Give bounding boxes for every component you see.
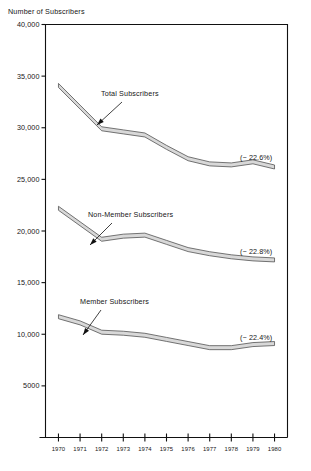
chart-container: Number of Subscribers 500010,00015,00020… xyxy=(0,0,311,471)
y-axis-tick-label: 35,000 xyxy=(17,72,40,81)
x-axis-tick-label: 1974 xyxy=(138,446,152,452)
y-axis-tick-label: 30,000 xyxy=(17,123,40,132)
y-axis-tick-label: 40,000 xyxy=(17,20,40,29)
percent-change-label-3: (− 22.4%) xyxy=(240,333,272,342)
plot-frame xyxy=(46,25,288,438)
percent-change-label-group: (− 22.6%)(− 22.8%)(− 22.4%) xyxy=(240,153,272,342)
y-axis-tick-label: 20,000 xyxy=(17,227,40,236)
x-axis-tick-label: 1971 xyxy=(73,446,87,452)
x-axis-tick-label: 1972 xyxy=(95,446,109,452)
series-label-2: Non-Member Subscribers xyxy=(88,210,173,219)
x-axis-tick-label: 1970 xyxy=(52,446,66,452)
y-axis-tick-label: 10,000 xyxy=(17,330,40,339)
percent-change-label-2: (− 22.8%) xyxy=(240,247,272,256)
x-axis-tick-label: 1973 xyxy=(117,446,131,452)
x-axis-tick-label: 1977 xyxy=(203,446,217,452)
annotation-arrowhead xyxy=(83,328,89,335)
percent-change-label-1: (− 22.6%) xyxy=(240,153,272,162)
series-label-3: Member Subscribers xyxy=(80,297,149,306)
series-label-1: Total Subscribers xyxy=(101,89,159,98)
x-axis-tick-label: 1979 xyxy=(246,446,260,452)
x-axis-tick-label: 1976 xyxy=(181,446,195,452)
y-axis-tick-label: 25,000 xyxy=(17,175,40,184)
y-axis-tick-label: 15,000 xyxy=(17,278,40,287)
x-axis-tick-label: 1975 xyxy=(160,446,174,452)
y-axis-tick-label: 5000 xyxy=(23,381,39,390)
x-axis-tick-group: 1970197119721973197419751976197719781979… xyxy=(40,434,288,452)
y-axis-tick-group: 500010,00015,00020,00025,00030,00035,000… xyxy=(17,20,46,390)
chart-plot-area: 500010,00015,00020,00025,00030,00035,000… xyxy=(0,0,311,471)
x-axis-tick-label: 1978 xyxy=(225,446,239,452)
x-axis-tick-label: 1980 xyxy=(268,446,282,452)
